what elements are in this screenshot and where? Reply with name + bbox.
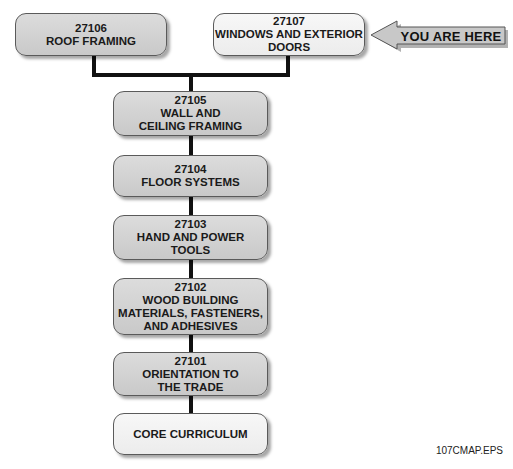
module-code: 27101 [175, 355, 207, 368]
module-code: 27102 [175, 281, 207, 294]
module-core-curriculum: CORE CURRICULUM [113, 413, 268, 455]
module-title-line2: TOOLS [171, 244, 210, 257]
module-title-line1: WOOD BUILDING [143, 294, 239, 307]
connector-27105-27104 [189, 136, 193, 156]
module-title-line1: WALL AND [160, 107, 220, 120]
connector-27103-27102 [189, 260, 193, 279]
module-27103-hand-power-tools: 27103 HAND AND POWER TOOLS [113, 215, 268, 260]
you-are-here-label: YOU ARE HERE [398, 27, 504, 45]
module-code: 27103 [175, 218, 207, 231]
module-27101-orientation: 27101 ORIENTATION TO THE TRADE [113, 352, 268, 396]
module-code: 27106 [75, 22, 107, 35]
module-title: ROOF FRAMING [46, 35, 136, 48]
module-title-line1: ORIENTATION TO [142, 368, 238, 381]
module-title: CORE CURRICULUM [133, 428, 247, 441]
module-code: 27105 [175, 94, 207, 107]
module-title-line1: WINDOWS AND EXTERIOR [215, 28, 363, 41]
connector-27104-27103 [189, 197, 193, 216]
module-code: 27104 [175, 163, 207, 176]
connector-to-27105 [189, 75, 193, 92]
module-27104-floor-systems: 27104 FLOOR SYSTEMS [113, 155, 268, 197]
module-code: 27107 [273, 15, 305, 28]
module-27106-roof-framing: 27106 ROOF FRAMING [15, 13, 167, 56]
module-title-line2: MATERIALS, FASTENERS, [118, 307, 263, 320]
module-title-line2: THE TRADE [158, 381, 224, 394]
module-title-line1: HAND AND POWER [137, 231, 245, 244]
module-title: FLOOR SYSTEMS [141, 176, 239, 189]
module-27107-windows-doors: 27107 WINDOWS AND EXTERIOR DOORS [213, 13, 365, 56]
module-27105-wall-ceiling-framing: 27105 WALL AND CEILING FRAMING [113, 91, 268, 136]
module-27102-wood-building-materials: 27102 WOOD BUILDING MATERIALS, FASTENERS… [113, 278, 268, 335]
connector-27101-core [189, 396, 193, 414]
figure-caption: 107CMAP.EPS [436, 445, 503, 456]
module-title-line2: CEILING FRAMING [139, 120, 243, 133]
module-title-line3: AND ADHESIVES [143, 320, 237, 333]
module-title-line2: DOORS [268, 41, 310, 54]
connector-27102-27101 [189, 335, 193, 353]
